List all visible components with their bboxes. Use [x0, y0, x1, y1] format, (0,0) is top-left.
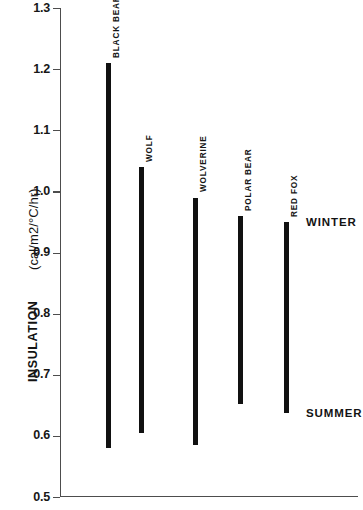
- y-tick-label-wrap: 0.5: [2, 490, 50, 504]
- species-label: POLAR BEAR: [244, 148, 253, 211]
- y-tick-mark: [53, 375, 60, 376]
- y-tick-label: 0.6: [2, 428, 50, 442]
- species-label: RED FOX: [290, 175, 299, 217]
- y-tick-mark: [53, 497, 60, 498]
- y-tick-label: 0.9: [2, 245, 50, 259]
- y-tick-mark: [53, 436, 60, 437]
- y-tick-mark: [53, 69, 60, 70]
- y-tick-label-wrap: 1.0: [2, 184, 50, 198]
- y-tick-mark: [53, 130, 60, 131]
- plot-area: 1.31.21.11.00.90.80.70.60.5 BLACK BEARWO…: [60, 8, 360, 497]
- y-tick-mark: [53, 253, 60, 254]
- y-tick-label: 0.8: [2, 306, 50, 320]
- y-tick-label: 1.0: [2, 184, 50, 198]
- y-tick-label-wrap: 1.2: [2, 62, 50, 76]
- y-tick-label: 1.3: [2, 1, 50, 15]
- range-bar: [193, 198, 198, 446]
- range-bar: [139, 167, 144, 433]
- y-tick-label-wrap: 0.8: [2, 306, 50, 320]
- y-tick-label-wrap: 1.3: [2, 1, 50, 15]
- season-annotation-summer: SUMMER: [306, 407, 363, 419]
- y-tick-label: 0.5: [2, 490, 50, 504]
- y-tick-label: 1.2: [2, 62, 50, 76]
- y-tick-label-wrap: 0.6: [2, 428, 50, 442]
- range-bar: [284, 222, 289, 413]
- species-label: WOLF: [145, 134, 154, 162]
- species-label: WOLVERINE: [199, 136, 208, 193]
- y-tick-label-wrap: 0.9: [2, 245, 50, 259]
- y-tick-mark: [53, 8, 60, 9]
- species-label: BLACK BEAR: [112, 0, 121, 58]
- range-bar: [106, 63, 111, 448]
- y-tick-label: 1.1: [2, 123, 50, 137]
- y-tick-mark: [53, 191, 60, 192]
- insulation-range-chart: INSULATION (cal/m2/°C/hr) 1.31.21.11.00.…: [0, 0, 363, 510]
- x-axis-line: [60, 496, 358, 497]
- y-tick-label: 0.7: [2, 367, 50, 381]
- y-axis-line: [60, 8, 61, 497]
- y-tick-label-wrap: 1.1: [2, 123, 50, 137]
- range-bar: [238, 216, 243, 404]
- y-tick-mark: [53, 314, 60, 315]
- y-tick-label-wrap: 0.7: [2, 367, 50, 381]
- season-annotation-winter: WINTER: [306, 216, 357, 228]
